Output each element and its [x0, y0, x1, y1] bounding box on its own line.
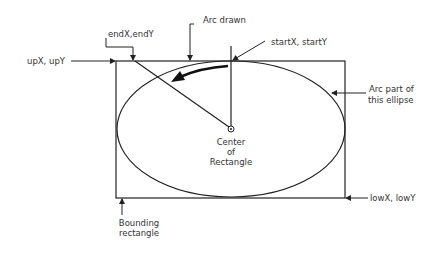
arrowhead-icon — [171, 71, 185, 82]
arc-drawn-label: Arc drawn — [203, 15, 246, 25]
arc-drawn-leader — [190, 24, 194, 60]
arc-diagram: Arc drawn endX,endY startX, startY upX, … — [0, 0, 437, 254]
ellipse-label-line1: Arc part of — [369, 84, 415, 94]
start-point-label: startX, startY — [271, 37, 328, 47]
up-point-label: upX, upY — [27, 56, 66, 66]
bounding-label-line2: rectangle — [119, 228, 159, 238]
end-radius-line — [135, 61, 229, 127]
bounding-label-line1: Bounding — [119, 218, 159, 228]
center-label-line2: of — [227, 147, 236, 157]
center-label-line1: Center — [217, 137, 246, 147]
center-label-line3: Rectangle — [210, 157, 252, 167]
arc-direction-arrow — [180, 66, 228, 77]
end-point-leader — [106, 38, 133, 60]
end-point-label: endX,endY — [108, 29, 155, 39]
start-point-leader — [233, 41, 265, 60]
ellipse-label-line2: this ellipse — [368, 95, 414, 105]
low-point-label: lowX, lowY — [370, 193, 416, 203]
